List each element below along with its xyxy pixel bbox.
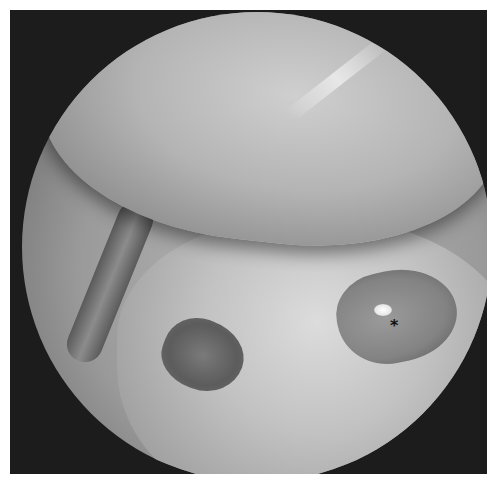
upper-tissue-fold [29,12,487,265]
endoscope-field: * [22,12,487,474]
asterisk-marker: * [390,318,398,334]
image-frame: * [10,10,487,474]
light-reflection [374,304,392,316]
